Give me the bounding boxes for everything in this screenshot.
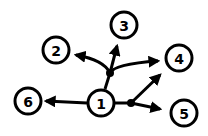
node-2: 2 — [43, 37, 69, 63]
node-label-6: 6 — [23, 94, 33, 110]
node-3: 3 — [111, 12, 137, 38]
edge-junction-to-4 — [110, 61, 158, 73]
hypergraph-diagram: 1 2 3 4 5 6 — [0, 0, 208, 136]
node-1: 1 — [88, 90, 114, 116]
node-label-1: 1 — [96, 96, 106, 112]
node-label-2: 2 — [51, 43, 61, 59]
edge-junction-to-5 — [131, 103, 160, 109]
edge-junction-to-2 — [76, 55, 110, 73]
junction-upper — [106, 69, 114, 77]
junction-right — [127, 99, 135, 107]
edge-1-to-6 — [46, 101, 87, 103]
node-label-5: 5 — [179, 106, 189, 122]
node-6: 6 — [15, 88, 41, 114]
node-4: 4 — [166, 45, 192, 71]
node-label-3: 3 — [119, 18, 129, 34]
node-label-4: 4 — [174, 51, 184, 67]
node-5: 5 — [171, 100, 197, 126]
edge-junction-to-4b — [131, 75, 160, 103]
